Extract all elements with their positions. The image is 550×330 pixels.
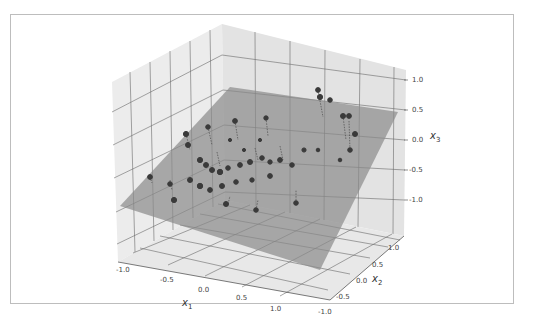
z-tick-2: 0.5 xyxy=(412,106,423,114)
x-tick-4: 0.5 xyxy=(236,294,247,302)
x-tick-3: 0.0 xyxy=(198,286,209,294)
z-tick-5: -1.0 xyxy=(409,196,423,204)
z-tick-3: 0.0 xyxy=(412,136,423,144)
x-axis-label: x1 xyxy=(181,297,192,311)
z-axis: 1.0 0.5 0.0 -0.5 -1.0 x3 xyxy=(404,76,440,204)
x-tick-2: -0.5 xyxy=(160,276,174,284)
x-tick-5: 1.0 xyxy=(270,305,281,313)
y-tick-2: 0.5 xyxy=(372,261,383,269)
x-tick-1: -1.0 xyxy=(116,266,130,274)
y-axis-label: x2 xyxy=(371,273,382,287)
z-axis-label: x3 xyxy=(429,130,440,144)
z-tick-1: 1.0 xyxy=(412,76,423,84)
y-tick-1: 1.0 xyxy=(388,244,399,252)
z-tick-4: -0.5 xyxy=(409,166,423,174)
y-tick-3: 0.0 xyxy=(356,277,367,285)
y-tick-5: -1.0 xyxy=(318,308,332,316)
chart-3d: 1.0 0.5 0.0 -0.5 -1.0 x3 -1.0 -0.5 0.0 0… xyxy=(0,0,550,330)
y-tick-4: -0.5 xyxy=(336,293,350,301)
